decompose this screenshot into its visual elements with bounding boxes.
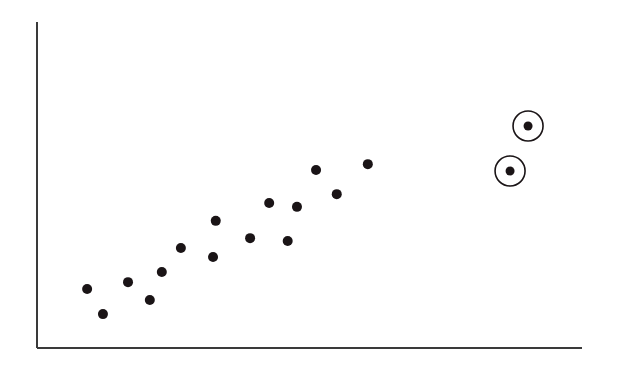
data-point <box>176 243 186 253</box>
data-points <box>82 159 373 319</box>
highlighted-points <box>495 111 543 186</box>
highlighted-point <box>524 121 533 130</box>
scatter-chart <box>0 0 619 368</box>
data-point <box>157 267 167 277</box>
data-point <box>245 233 255 243</box>
data-point <box>363 159 373 169</box>
data-point <box>292 202 302 212</box>
chart-canvas <box>0 0 619 368</box>
data-point <box>332 189 342 199</box>
data-point <box>145 295 155 305</box>
data-point <box>98 309 108 319</box>
data-point <box>211 216 221 226</box>
data-point <box>208 252 218 262</box>
data-point <box>311 165 321 175</box>
data-point <box>123 277 133 287</box>
data-point <box>82 284 92 294</box>
data-point <box>283 236 293 246</box>
data-point <box>264 198 274 208</box>
highlighted-point <box>506 166 515 175</box>
